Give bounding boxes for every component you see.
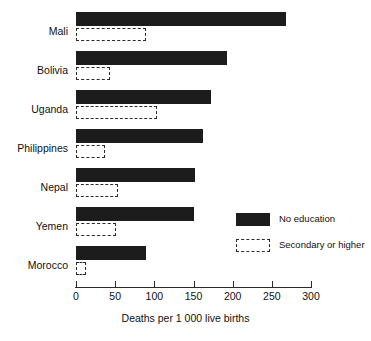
x-axis-tick-label-100: 100 <box>146 290 164 302</box>
legend-item-secondary-or-higher: Secondary or higher <box>236 238 365 252</box>
bar-secondary-or-higher-yemen <box>76 223 116 236</box>
x-axis-tick-150 <box>194 281 195 287</box>
x-axis-tick-0 <box>76 281 77 287</box>
x-axis-title: Deaths per 1 000 live births <box>0 312 371 324</box>
x-axis-tick-label-200: 200 <box>224 290 242 302</box>
bar-no-education-bolivia <box>76 51 227 65</box>
bar-secondary-or-higher-bolivia <box>76 67 110 80</box>
bar-secondary-or-higher-nepal <box>76 184 118 197</box>
bar-no-education-yemen <box>76 207 194 221</box>
bar-secondary-or-higher-uganda <box>76 106 157 119</box>
bar-secondary-or-higher-philippines <box>76 145 105 158</box>
category-label-morocco: Morocco <box>28 260 68 271</box>
x-axis-tick-50 <box>115 281 116 287</box>
x-axis-tick-label-0: 0 <box>73 290 79 302</box>
category-label-yemen: Yemen <box>36 221 68 232</box>
category-label-uganda: Uganda <box>31 104 68 115</box>
bar-secondary-or-higher-mali <box>76 28 146 41</box>
legend-label-secondary-or-higher: Secondary or higher <box>279 240 365 250</box>
bar-secondary-or-higher-morocco <box>76 262 86 275</box>
bar-no-education-morocco <box>76 246 146 260</box>
x-axis-line <box>75 287 312 288</box>
category-label-mali: Mali <box>49 26 68 37</box>
x-axis-tick-200 <box>233 281 234 287</box>
bar-no-education-philippines <box>76 129 203 143</box>
legend-swatch-solid-icon <box>236 213 270 226</box>
legend-item-no-education: No education <box>236 212 365 226</box>
x-axis-tick-label-250: 250 <box>263 290 281 302</box>
bar-no-education-uganda <box>76 90 211 104</box>
legend-swatch-dashed-icon <box>236 239 270 252</box>
x-axis-tick-label-150: 150 <box>185 290 203 302</box>
x-axis-tick-100 <box>154 281 155 287</box>
chart-legend: No education Secondary or higher <box>236 212 365 264</box>
bar-no-education-nepal <box>76 168 195 182</box>
x-axis-tick-250 <box>272 281 273 287</box>
x-axis-tick-label-50: 50 <box>109 290 121 302</box>
bar-no-education-mali <box>76 12 286 26</box>
x-axis-tick-300 <box>311 281 312 287</box>
bar-chart: Mali Bolivia Uganda Philippines Nepal Ye… <box>0 0 371 341</box>
category-label-nepal: Nepal <box>41 182 68 193</box>
legend-label-no-education: No education <box>279 214 335 224</box>
x-axis-tick-label-300: 300 <box>302 290 320 302</box>
category-label-philippines: Philippines <box>17 143 68 154</box>
category-label-bolivia: Bolivia <box>37 65 68 76</box>
